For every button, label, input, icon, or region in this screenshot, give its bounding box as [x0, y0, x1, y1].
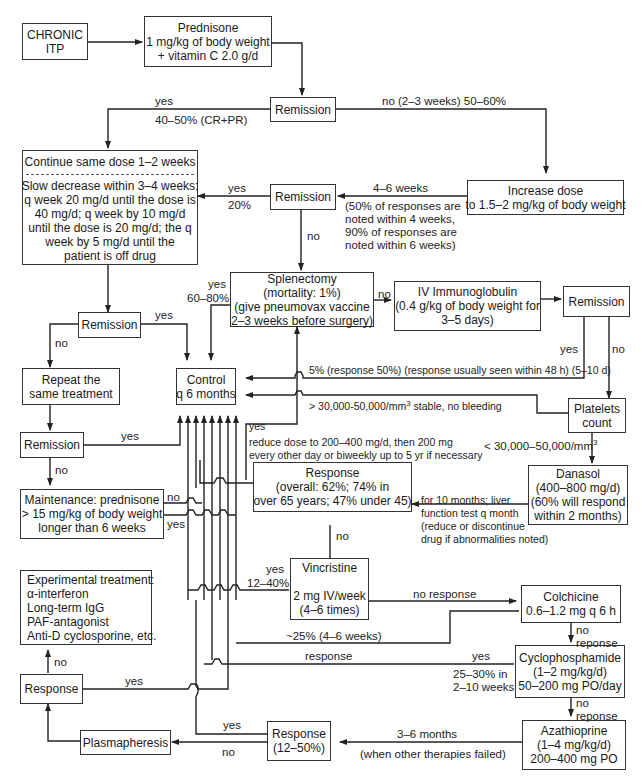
node-colchicine: Colchicine 0.6–1.2 mg q 6 h	[521, 585, 621, 623]
label-maintenance-no: no	[167, 491, 180, 504]
label-aza-no: no	[222, 746, 235, 759]
label-splen-yes-pct: 60–80%	[187, 292, 229, 305]
label-r1-no: no (2–3 weeks) 50–60%	[382, 95, 506, 108]
node-response-azathioprine: Response (12–50%)	[267, 721, 331, 761]
node-splenectomy: Splenectomy (mortality: 1%) (give pneumo…	[230, 272, 374, 327]
node-remission-2: Remission	[270, 184, 336, 210]
dashed-divider	[26, 174, 194, 175]
label-r3-no: no	[55, 337, 68, 350]
label-experimental-no: no	[54, 656, 67, 669]
node-control: Control q 6 months	[176, 368, 236, 405]
label-cyclo-yes: yes	[472, 650, 490, 663]
label-aza-months: 3–6 months	[397, 728, 457, 741]
node-vincristine: Vincristine 2 mg IV/week (4–6 times)	[290, 558, 369, 620]
label-ivig-response: 5% (response 50%) (response usually seen…	[309, 364, 611, 377]
label-r2-yes-pct: 20%	[228, 199, 251, 212]
node-cyclophosphamide: Cyclophosphamide (1–2 mg/kg/d) 50–200 mg…	[515, 645, 625, 698]
label-r1-yes: yes	[155, 95, 173, 108]
node-remission-4: Remission	[20, 432, 84, 458]
node-response-left: Response	[20, 674, 83, 704]
node-repeat-treatment: Repeat the same treatment	[22, 368, 120, 405]
label-r4-no: no	[55, 464, 68, 477]
node-chronic-itp: CHRONIC ITP	[22, 23, 88, 60]
node-increase-dose: Increase dose to 1.5–2 mg/kg of body wei…	[467, 180, 624, 215]
node-plasmapheresis: Plasmapheresis	[80, 730, 171, 755]
label-danasol-yes: yes	[249, 420, 265, 433]
label-response-no: no	[336, 530, 349, 543]
label-colchicine-no: no reponse	[576, 624, 618, 650]
node-prednisone: Prednisone 1 mg/kg of body weight + vita…	[144, 16, 272, 67]
label-ivig-no: no	[612, 343, 625, 356]
node-continue-dose: Continue same dose 1–2 weeks Slow decrea…	[22, 150, 198, 265]
label-cyclo-pct: 25–30% in 2–10 weeks	[453, 668, 514, 694]
label-splen-yes: yes	[208, 278, 226, 291]
label-r1-yes-pct: 40–50% (CR+PR)	[155, 114, 247, 127]
node-maintenance: Maintenance: prednisone > 15 mg/kg of bo…	[20, 489, 164, 539]
label-danasol-note: for 10 months; liver function test q mon…	[421, 494, 548, 546]
node-remission-1: Remission	[270, 97, 336, 122]
node-platelets-count: Platelets count	[568, 398, 626, 433]
node-iv-immunoglobulin: IV Immunoglobulin (0.4 g/kg of body weig…	[394, 281, 541, 331]
itp-flowchart: CHRONIC ITP Prednisone 1 mg/kg of body w…	[0, 0, 642, 782]
label-response-left-yes: yes	[125, 675, 143, 688]
label-aza-yes: yes	[223, 719, 241, 732]
label-increase-weeks: 4–6 weeks	[373, 182, 428, 195]
node-remission-3: Remission	[78, 312, 141, 338]
label-ivig-yes: yes	[560, 343, 578, 356]
node-azathioprine: Azathioprine (1–4 mg/kg/d) 200–400 mg PO	[522, 720, 626, 770]
node-experimental-treatment: Experimental treatment: α-interferon Lon…	[20, 570, 152, 645]
label-platelets-low: < 30,000–50,000/mm3	[484, 440, 597, 453]
node-response-danasol: Response (overall: 62%; 74% in over 65 y…	[253, 462, 412, 512]
label-r2-yes: yes	[228, 182, 246, 195]
label-vinc-yes-pct: 12–40%	[247, 577, 289, 590]
label-platelets-high: > 30,000-50,000/mm3 stable, no bleeding	[309, 400, 502, 413]
label-aza-note: (when other therapies failed)	[360, 748, 506, 761]
node-remission-ivig: Remission	[563, 286, 630, 317]
label-danasol-reduce: reduce dose to 200–400 mg/d, then 200 mg…	[249, 436, 482, 462]
label-r2-no: no	[307, 230, 320, 243]
label-cyclo-response: response	[305, 650, 352, 663]
label-r3-yes: yes	[155, 309, 173, 322]
label-increase-note: (50% of responses are noted within 4 wee…	[345, 200, 461, 252]
label-r4-yes: yes	[121, 430, 139, 443]
label-splen-no: no	[378, 288, 391, 301]
label-cyclo-no: no reponse	[576, 697, 618, 723]
label-colchicine-25: ~25% (4–6 weeks)	[286, 630, 382, 643]
label-vinc-yes: yes	[266, 563, 284, 576]
label-maintenance-yes: yes	[167, 518, 185, 531]
label-vinc-no-response: no response	[413, 588, 476, 601]
